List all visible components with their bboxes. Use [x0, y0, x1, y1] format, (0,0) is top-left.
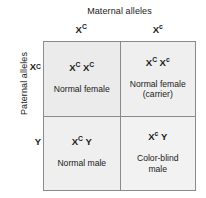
punnett-cell-top-left: XCXC Normal female [44, 42, 120, 116]
punnett-square-grid: XCXC Normal female XCXc Normal female (c… [43, 41, 196, 191]
genotype-top-right-allele2-superscript: c [166, 55, 170, 62]
genotype-top-right: XCXc [146, 57, 170, 69]
column-header-row: XC Xc [43, 24, 196, 36]
genotype-top-right-allele1-superscript: C [152, 55, 157, 62]
row-header-column: XC Y [24, 41, 41, 191]
genotype-bottom-right: XcY [148, 131, 167, 143]
column-header-maternal-XC-superscript: C [82, 23, 87, 30]
phenotype-bottom-right: Color-blind male [137, 153, 179, 174]
genotype-top-left-allele1-superscript: C [76, 61, 81, 68]
column-header-maternal-Xc: Xc [120, 24, 197, 36]
row-header-paternal-Y-symbol: Y [35, 136, 41, 147]
genotype-top-left-allele2-superscript: C [89, 61, 94, 68]
phenotype-top-left: Normal female [54, 84, 110, 95]
row-header-paternal-XC: XC [24, 41, 41, 116]
phenotype-top-right: Normal female (carrier) [130, 79, 186, 100]
genotype-bottom-left-allele1-superscript: C [78, 135, 83, 142]
punnett-cell-bottom-left: XCY Normal male [44, 116, 120, 190]
punnett-cell-bottom-right: XcY Color-blind male [120, 116, 196, 190]
genotype-bottom-left: XCY [72, 136, 92, 148]
phenotype-bottom-left: Normal male [57, 158, 106, 169]
row-header-paternal-Y: Y [24, 116, 41, 191]
maternal-alleles-axis-title: Maternal alleles [43, 6, 196, 17]
column-header-maternal-Xc-superscript: c [159, 23, 163, 30]
punnett-cell-top-right: XCXc Normal female (carrier) [120, 42, 196, 116]
genotype-bottom-right-allele1-superscript: c [155, 130, 159, 137]
genotype-bottom-left-allele2-symbol: Y [85, 136, 91, 147]
genotype-top-left: XCXC [69, 62, 94, 74]
genotype-bottom-right-allele2-symbol: Y [161, 131, 167, 142]
column-header-maternal-XC: XC [43, 24, 120, 36]
